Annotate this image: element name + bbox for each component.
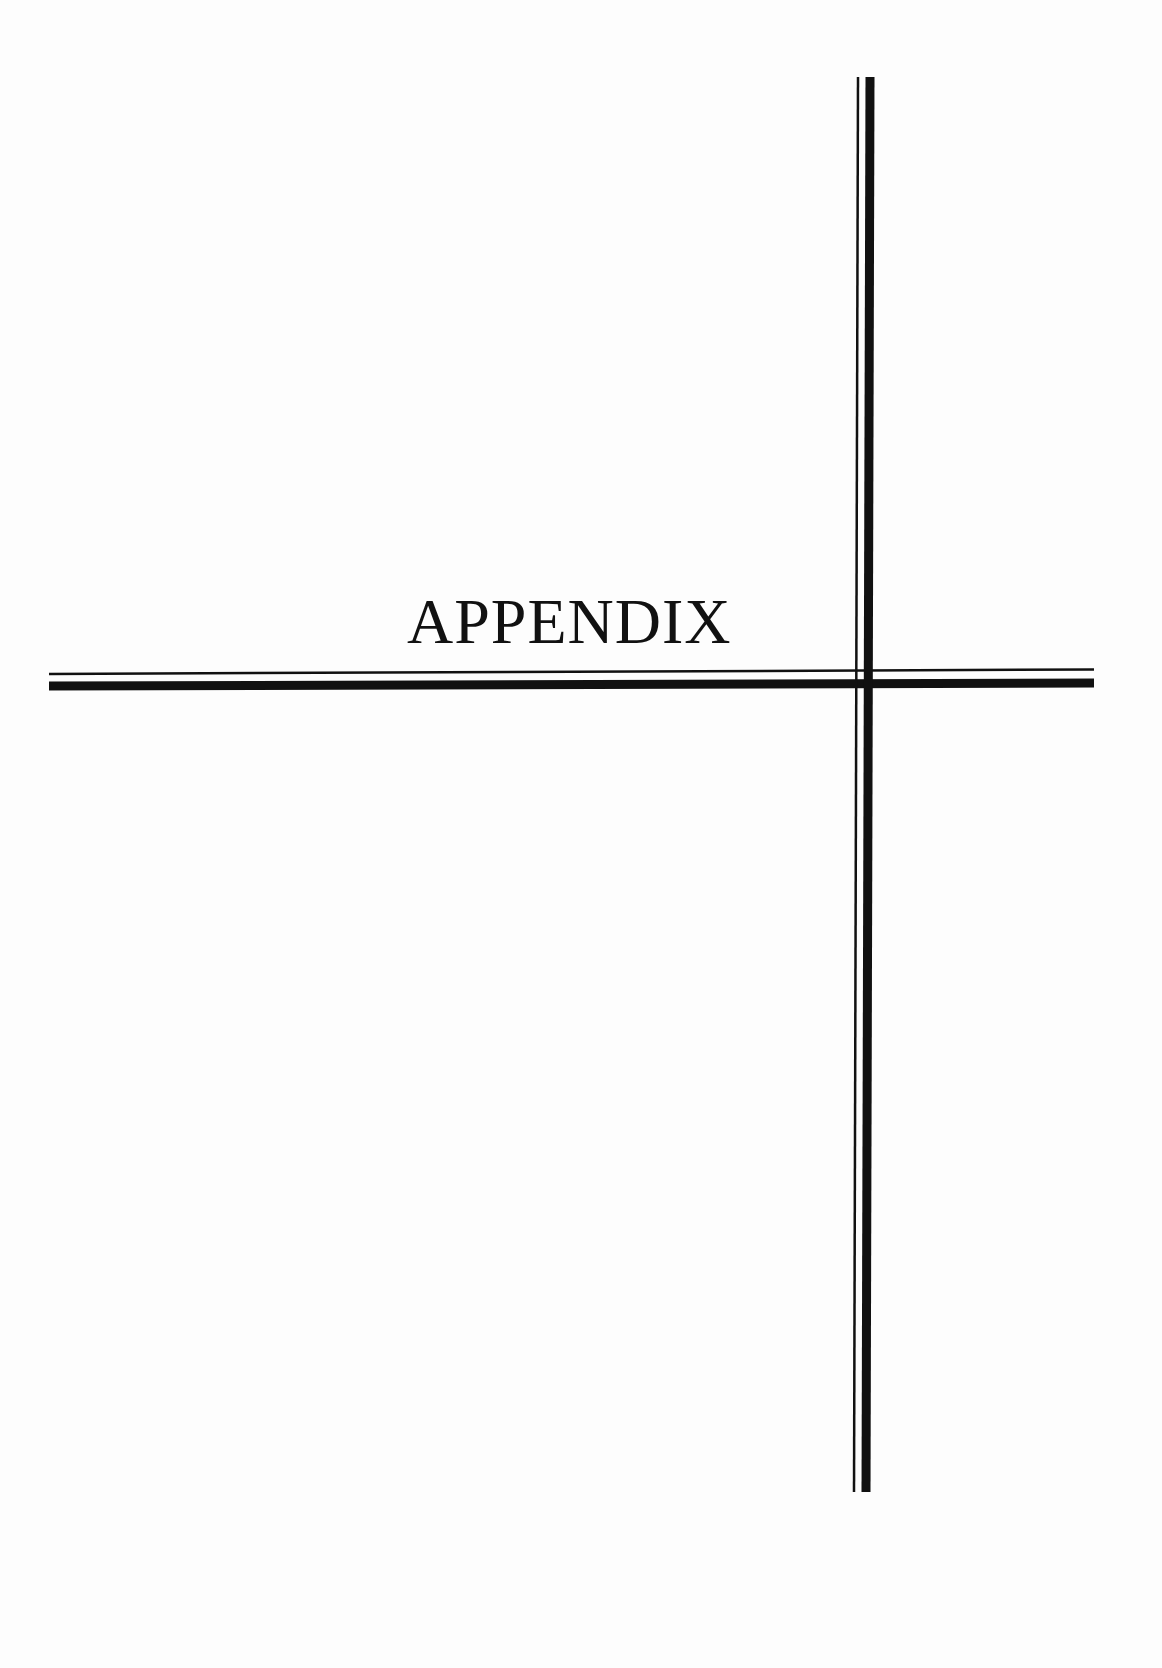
- vertical-thick-rule: [866, 77, 870, 1492]
- vertical-thin-rule: [854, 77, 858, 1492]
- appendix-title-page: APPENDIX: [0, 0, 1162, 1668]
- page-title: APPENDIX: [407, 590, 731, 654]
- horizontal-thin-rule: [49, 670, 1094, 675]
- cross-rules-decoration: [0, 0, 1162, 1668]
- horizontal-thick-rule: [49, 683, 1094, 686]
